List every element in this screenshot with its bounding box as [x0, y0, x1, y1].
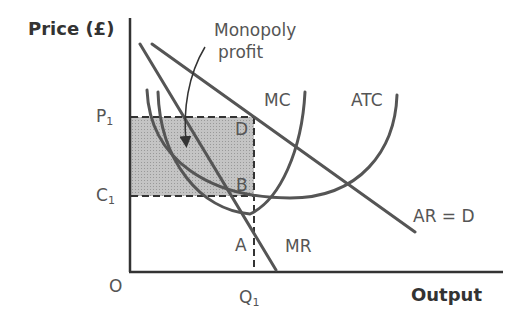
mc-label: MC	[264, 92, 291, 109]
atc-label: ATC	[351, 92, 383, 109]
c1-label: C1	[96, 187, 115, 206]
point-b-label: B	[236, 177, 248, 194]
point-d-label: D	[235, 121, 248, 138]
origin-label: O	[109, 278, 122, 295]
annotation-line1: Monopoly	[214, 22, 296, 39]
mr-label: MR	[285, 238, 311, 255]
point-a-label: A	[235, 237, 247, 254]
ar-label: AR = D	[413, 208, 475, 225]
x-axis-label: Output	[411, 286, 482, 304]
q1-label: Q1	[239, 289, 259, 308]
p1-label: P1	[96, 108, 113, 127]
y-axis-label: Price (£)	[28, 20, 114, 38]
annotation-line2: profit	[218, 44, 263, 61]
